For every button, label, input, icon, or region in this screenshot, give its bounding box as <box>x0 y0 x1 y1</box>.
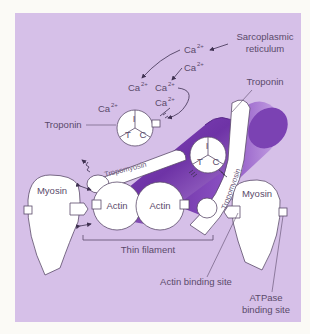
svg-text:2+: 2+ <box>168 96 175 102</box>
svg-text:2+: 2+ <box>197 61 204 67</box>
atpase-label-2: binding site <box>242 304 290 315</box>
myosin-right-label: Myosin <box>242 188 272 199</box>
calcium-ions: Ca 2+ Ca 2+ Ca 2+ Ca 2+ Ca 2+ Ca 2+ <box>98 43 204 118</box>
calcium-ion: Ca 2+ <box>155 81 175 93</box>
troponin-2-i: I <box>206 140 209 151</box>
myosin-head-left: Myosin <box>24 175 91 275</box>
myosin-left-label: Myosin <box>37 185 67 196</box>
troponin-1-i: I <box>133 113 136 124</box>
thin-filament-label: Thin filament <box>121 244 176 255</box>
muscle-contraction-diagram: Tropomyosin Tropomyosin Actin Actin I T … <box>0 0 310 334</box>
calcium-ion: Ca 2+ <box>128 81 148 93</box>
svg-text:2+: 2+ <box>197 43 204 49</box>
troponin-1-c: C <box>140 129 147 140</box>
atpase-label-1: ATPase <box>249 292 282 303</box>
svg-text:2+: 2+ <box>141 81 148 87</box>
troponin-2-c: C <box>213 156 220 167</box>
calcium-ion: Ca 2+ <box>184 61 204 73</box>
actin-binding-site-label: Actin binding site <box>160 276 232 287</box>
calcium-ion: Ca 2+ <box>98 102 118 114</box>
myosin-head-right: Myosin <box>224 180 287 270</box>
svg-text:Ca: Ca <box>184 44 197 55</box>
troponin-2-t: T <box>197 156 203 167</box>
svg-text:2+: 2+ <box>111 102 118 108</box>
actin-monomer-1: Actin <box>92 182 141 230</box>
sarcoplasmic-label-2: reticulum <box>246 43 285 54</box>
calcium-ion: Ca 2+ <box>184 43 204 55</box>
troponin-complex-1: I T C <box>117 110 160 146</box>
svg-text:Ca: Ca <box>155 97 168 108</box>
svg-text:Ca: Ca <box>184 62 197 73</box>
svg-text:2+: 2+ <box>168 81 175 87</box>
sarcoplasmic-label-1: Sarcoplasmic <box>236 31 293 42</box>
tropomyosin-right-end <box>197 198 217 218</box>
svg-text:Ca: Ca <box>155 82 168 93</box>
svg-text:Ca: Ca <box>98 103 111 114</box>
actin-2-label: Actin <box>149 200 170 211</box>
thin-filament-bracket: Thin filament <box>83 235 213 255</box>
troponin-right-label: Troponin <box>246 76 283 87</box>
troponin-left-label: Troponin <box>44 119 81 130</box>
calcium-ion: Ca 2+ <box>155 96 175 108</box>
troponin-1-t: T <box>125 129 131 140</box>
actin-1-label: Actin <box>106 200 127 211</box>
svg-text:Ca: Ca <box>128 82 141 93</box>
